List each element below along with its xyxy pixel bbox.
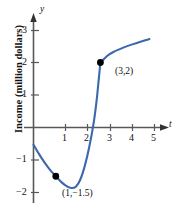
annotation-point-min: (1,−1.5)	[62, 188, 93, 198]
annotation-point-corner: (3,2)	[115, 66, 133, 76]
x-axis-name: t	[169, 119, 172, 129]
y-tick-label-2: 2	[22, 56, 27, 67]
x-tick-label-4: 4	[129, 132, 134, 143]
y-axis-title-text: Income (million dollars)	[13, 25, 24, 133]
y-tick-label-minus-1: −1	[16, 153, 27, 164]
marker-point-min	[52, 173, 59, 180]
y-axis-arrow	[30, 13, 36, 22]
y-axis-name: y	[40, 4, 44, 14]
y-tick-label-3: 3	[22, 24, 27, 35]
marker-point-corner	[97, 59, 104, 66]
chart-figure: Income (million dollars) y t 1 2 3 4 5 3…	[0, 0, 178, 206]
x-tick-label-1: 1	[62, 132, 67, 143]
y-tick-label-minus-2: −2	[16, 186, 27, 197]
x-tick-label-3: 3	[107, 132, 112, 143]
income-curve-main	[34, 39, 150, 188]
x-tick-label-5: 5	[151, 132, 156, 143]
y-tick-label-1: 1	[22, 88, 27, 99]
x-tick-label-2: 2	[84, 132, 89, 143]
x-axis-arrow	[160, 124, 169, 130]
